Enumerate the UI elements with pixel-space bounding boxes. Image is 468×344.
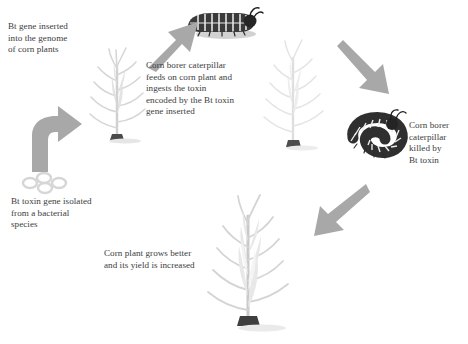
corn-borer-caterpillar-dead [347, 108, 413, 164]
arrow-bacteria-to-plant [14, 102, 94, 174]
caption-yield-increased: Corn plant grows better and its yield is… [104, 248, 238, 271]
caption-corn-borer-feeds: Corn borer caterpillar feeds on corn pla… [146, 60, 274, 118]
caption-bt-toxin-isolated: Bt toxin gene isolated from a bacterial … [11, 196, 137, 231]
arrow-dead-to-healthy [310, 178, 372, 240]
caption-bt-gene-inserted: Bt gene inserted into the genome of corn… [8, 21, 132, 56]
arrow-infested-to-dead [333, 38, 395, 100]
caption-caterpillar-killed: Corn borer caterpillar killed by Bt toxi… [409, 120, 467, 166]
diagram-canvas: Bt gene inserted into the genome of corn… [0, 0, 468, 344]
